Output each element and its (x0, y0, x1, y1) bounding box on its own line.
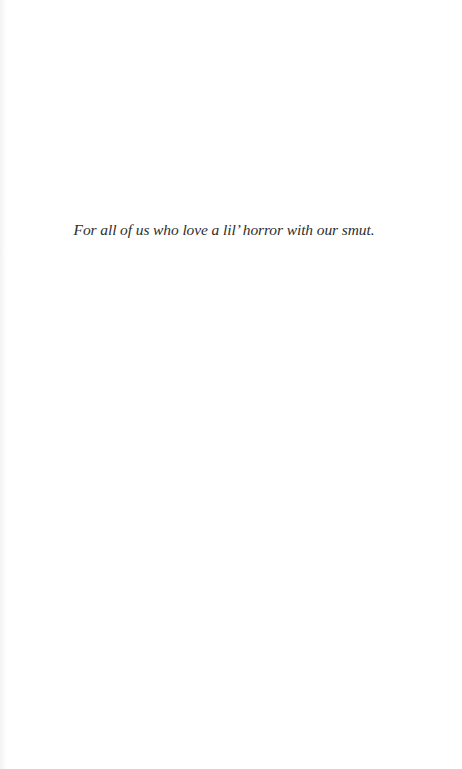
page-edge-shadow (0, 0, 6, 769)
dedication-text: For all of us who love a lil’ horror wit… (0, 220, 448, 240)
